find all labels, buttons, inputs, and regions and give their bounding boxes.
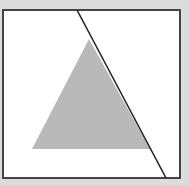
diagram-canvas: [0, 0, 189, 185]
